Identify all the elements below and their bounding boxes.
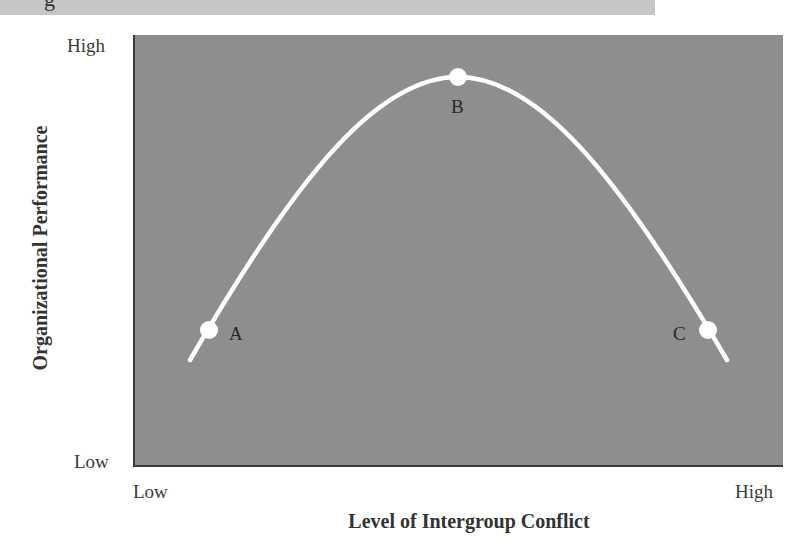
y-tick-low: Low bbox=[74, 452, 109, 471]
point-b-label: B bbox=[451, 97, 464, 116]
y-axis-title: Organizational Performance bbox=[29, 126, 52, 371]
performance-curve bbox=[190, 77, 727, 360]
x-axis-title: Level of Intergroup Conflict bbox=[348, 510, 589, 533]
point-b-marker bbox=[449, 68, 467, 86]
chart-curve-layer bbox=[0, 0, 806, 544]
x-tick-low: Low bbox=[133, 482, 168, 501]
x-tick-high: High bbox=[735, 482, 773, 501]
y-tick-high: High bbox=[67, 36, 105, 55]
point-c-marker bbox=[699, 321, 717, 339]
point-c-label: C bbox=[673, 324, 686, 343]
point-a-label: A bbox=[229, 324, 243, 343]
point-a-marker bbox=[200, 321, 218, 339]
